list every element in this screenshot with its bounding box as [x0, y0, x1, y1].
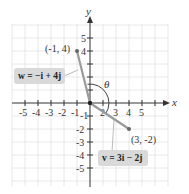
svg-text:5: 5: [81, 33, 86, 44]
svg-text:4: 4: [81, 46, 86, 57]
svg-text:3: 3: [113, 107, 118, 118]
svg-text:-5: -5: [19, 107, 27, 118]
svg-text:-3: -3: [45, 107, 53, 118]
svg-text:-2: -2: [58, 107, 66, 118]
y-axis-arrow-icon: [87, 16, 93, 23]
svg-text:4: 4: [126, 107, 131, 118]
svg-text:-4: -4: [76, 150, 84, 161]
svg-text:-4: -4: [32, 107, 40, 118]
leader-w: [64, 70, 78, 76]
x-axis-label: x: [171, 96, 177, 108]
vector-v-label: v = 3i − 2j: [102, 153, 142, 163]
y-axis-label: y: [85, 5, 91, 17]
leader-v: [112, 120, 114, 152]
vector-diagram: x y -5 -4 -3 -2 -1 2 3 4 5 5 4 -1 -2 -3 …: [0, 0, 189, 194]
svg-text:-3: -3: [76, 137, 84, 148]
svg-text:5: 5: [139, 107, 144, 118]
point-w-label: (-1, 4): [45, 43, 70, 55]
svg-text:-1: -1: [80, 110, 88, 121]
angle-label: θ: [104, 78, 110, 90]
point-v: [127, 127, 131, 131]
origin-point: [88, 101, 92, 105]
svg-text:-2: -2: [76, 124, 84, 135]
x-axis-arrow-icon: [163, 100, 170, 106]
point-w: [75, 49, 79, 53]
point-v-label: (3, -2): [131, 134, 156, 146]
vector-w-label: w = −i + 4j: [18, 71, 61, 81]
svg-text:-5: -5: [76, 163, 84, 174]
svg-text:-1: -1: [71, 107, 79, 118]
